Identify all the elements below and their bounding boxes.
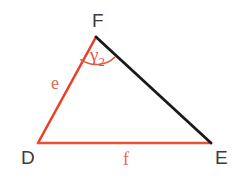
- side-fe-line: [96, 37, 211, 143]
- geometry-figure: F D E e f γ2: [0, 0, 235, 182]
- side-e-line: [38, 37, 96, 143]
- side-label-f: f: [123, 150, 129, 168]
- angle-label-gamma2: γ2: [90, 45, 105, 68]
- triangle-drawing: [0, 0, 235, 182]
- vertex-label-f: F: [92, 11, 104, 30]
- vertex-label-e: E: [215, 148, 228, 167]
- side-label-e: e: [51, 74, 59, 92]
- angle-label-gamma2-subscript: 2: [98, 54, 105, 69]
- vertex-label-d: D: [21, 148, 35, 167]
